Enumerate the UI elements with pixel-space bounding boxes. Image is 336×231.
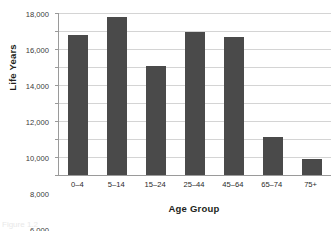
y-axis-tick-label: 10,000 [26,154,49,163]
bar-chart-figure: Life Years 02,0004,0006,0008,00010,00012… [0,0,336,231]
y-axis-tick-label: 14,000 [26,82,49,91]
bar-slot [253,13,292,175]
y-axis-tick-label: 18,000 [26,10,49,19]
x-axis-title: Age Group [58,203,330,214]
bar [68,35,88,175]
bar [224,37,244,175]
bar [263,137,283,175]
bars-group [59,13,331,175]
x-axis-tick-label: 0–4 [58,180,97,189]
y-axis-tick-label: 12,000 [26,118,49,127]
bar-slot [98,13,137,175]
y-axis-tick-label: 16,000 [26,46,49,55]
bar [185,32,205,175]
y-axis-tick: 0 [55,175,59,176]
y-axis-tick-label: 8,000 [30,190,49,199]
bar-slot [292,13,331,175]
x-axis-tick-label: 5–14 [97,180,136,189]
bar [146,66,166,175]
bar-slot [176,13,215,175]
x-axis-tick-label: 65–74 [252,180,291,189]
bar [107,17,127,175]
x-axis-tick-label: 25–44 [175,180,214,189]
x-axis-tick-label: 15–24 [136,180,175,189]
bar-slot [59,13,98,175]
x-axis-tick-labels: 0–45–1415–2425–4445–6465–7475+ [58,180,330,189]
bar-slot [214,13,253,175]
bar [302,159,322,175]
plot-area: 02,0004,0006,0008,00010,00012,00014,0001… [58,13,331,176]
y-axis-title: Life Years [7,8,18,128]
x-axis-tick-label: 75+ [291,180,330,189]
bar-slot [137,13,176,175]
figure-caption: Figure 1.2 [2,220,38,231]
x-axis-tick-label: 45–64 [213,180,252,189]
